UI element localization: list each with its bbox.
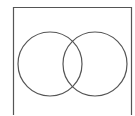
- venn-diagram: [0, 0, 135, 115]
- universe-rectangle: [14, 8, 132, 116]
- right-set-circle: [63, 32, 127, 96]
